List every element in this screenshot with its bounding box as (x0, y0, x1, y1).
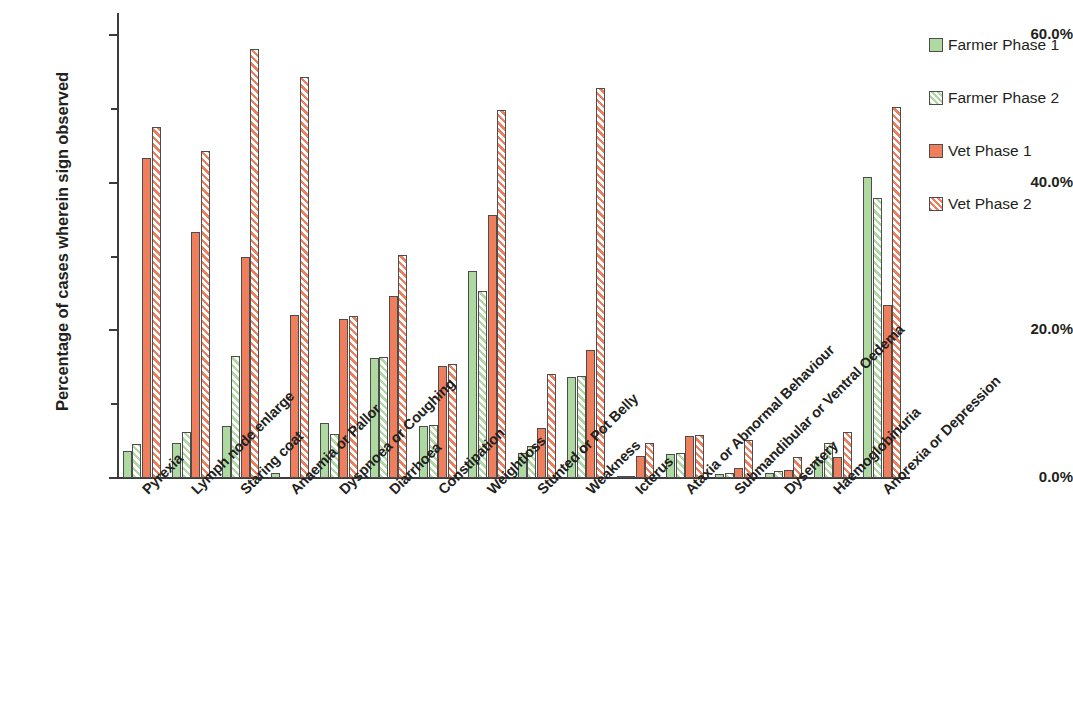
bar-group (123, 13, 161, 478)
bar (715, 474, 724, 478)
legend-item: Vet Phase 1 (929, 134, 1073, 168)
legend-label: Farmer Phase 1 (948, 36, 1059, 54)
bar (201, 151, 210, 478)
bar (123, 451, 132, 478)
bar (182, 432, 191, 478)
legend-swatch-icon (929, 91, 943, 105)
bar (300, 77, 309, 478)
bar-group (172, 13, 210, 478)
legend-label: Farmer Phase 2 (948, 89, 1059, 107)
bar (863, 177, 872, 478)
y-axis-title: Percentage of cases wherein sign observe… (53, 32, 72, 452)
legend-swatch-icon (929, 144, 943, 158)
bar (497, 110, 506, 478)
bar (617, 476, 626, 478)
bar (271, 473, 280, 478)
bar-group (715, 13, 753, 478)
chart-legend: Farmer Phase 1Farmer Phase 2Vet Phase 1V… (929, 28, 1073, 240)
bar (685, 436, 694, 478)
bar-group (320, 13, 358, 478)
bar-chart: Percentage of cases wherein sign observe… (0, 0, 1073, 710)
legend-item: Farmer Phase 1 (929, 28, 1073, 62)
legend-label: Vet Phase 2 (948, 195, 1032, 213)
bar-group (518, 13, 556, 478)
y-tick-label: 20.0% (987, 320, 1073, 337)
bar (250, 49, 259, 478)
bar-group (666, 13, 704, 478)
bar (349, 316, 358, 478)
bar-group (468, 13, 506, 478)
legend-item: Vet Phase 2 (929, 187, 1073, 221)
legend-swatch-icon (929, 197, 943, 211)
legend-label: Vet Phase 1 (948, 142, 1032, 160)
bar-group (567, 13, 605, 478)
bar (132, 444, 141, 478)
bar-group (222, 13, 260, 478)
legend-swatch-icon (929, 38, 943, 52)
bar (626, 476, 635, 478)
y-tick-label: 0.0% (987, 468, 1073, 485)
bar-group (863, 13, 901, 478)
bar (725, 473, 734, 478)
bar (774, 471, 783, 478)
bar (586, 350, 595, 478)
plot-area (117, 13, 907, 478)
bar (547, 374, 556, 478)
bar (676, 453, 685, 478)
bar (142, 158, 151, 478)
bar (152, 127, 161, 478)
bar (191, 232, 200, 478)
legend-item: Farmer Phase 2 (929, 81, 1073, 115)
